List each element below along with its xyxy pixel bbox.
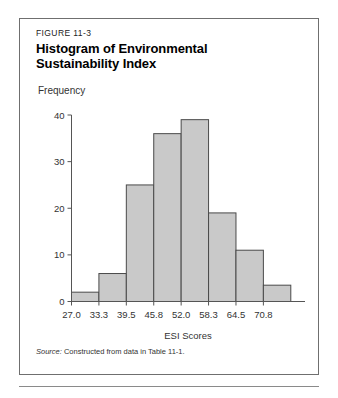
histogram-bar xyxy=(263,285,290,301)
histogram-bar xyxy=(126,185,153,302)
histogram-bar xyxy=(209,213,236,302)
figure-card: FIGURE 11-3 Histogram of Environmental S… xyxy=(19,18,319,375)
bar-group xyxy=(72,120,291,302)
histogram-svg: 010203040 27.033.339.545.852.058.364.570… xyxy=(20,19,320,376)
y-tick-label: 0 xyxy=(59,296,64,307)
x-axis-ticks: 27.033.339.545.852.058.364.570.8 xyxy=(62,302,272,320)
histogram-chart: 010203040 27.033.339.545.852.058.364.570… xyxy=(20,19,320,376)
y-tick-label: 20 xyxy=(54,203,65,214)
x-tick-label: 45.8 xyxy=(144,309,163,320)
y-tick-label: 40 xyxy=(54,110,65,121)
x-tick-label: 64.5 xyxy=(227,309,246,320)
x-tick-label: 52.0 xyxy=(172,309,191,320)
source-note: Source: Constructed from data in Table 1… xyxy=(36,347,185,356)
x-tick-label: 70.8 xyxy=(254,309,273,320)
x-axis-title: ESI Scores xyxy=(164,330,212,341)
x-tick-label: 58.3 xyxy=(199,309,218,320)
x-tick-label: 33.3 xyxy=(90,309,109,320)
y-tick-label: 30 xyxy=(54,156,65,167)
x-tick-label: 39.5 xyxy=(117,309,136,320)
source-label: Source: xyxy=(36,347,62,356)
histogram-bar xyxy=(181,120,208,302)
bottom-rule xyxy=(19,386,319,387)
histogram-bar xyxy=(236,250,263,301)
y-axis-ticks: 010203040 xyxy=(54,110,72,308)
source-text: Constructed from data in Table 11-1. xyxy=(62,347,185,356)
y-tick-label: 10 xyxy=(54,249,65,260)
histogram-bar xyxy=(154,134,181,302)
histogram-bar xyxy=(72,292,99,301)
histogram-bar xyxy=(99,274,126,302)
x-tick-label: 27.0 xyxy=(62,309,81,320)
